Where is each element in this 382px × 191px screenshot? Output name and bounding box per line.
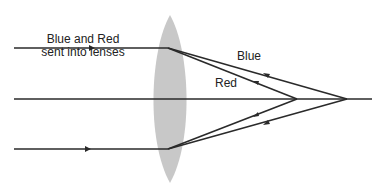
chromatic-aberration-diagram: Blue and Red sent into lenses Blue Red <box>0 0 382 191</box>
arrow-icon <box>253 112 259 117</box>
arrow-icon <box>85 146 91 152</box>
arrow-icon <box>253 81 259 85</box>
title-label: Blue and Red sent into lenses <box>43 33 123 59</box>
blue-label: Blue <box>237 50 261 63</box>
title-line-2: sent into lenses <box>35 46 131 59</box>
red-label: Red <box>215 77 237 90</box>
diagram-canvas <box>0 0 382 191</box>
